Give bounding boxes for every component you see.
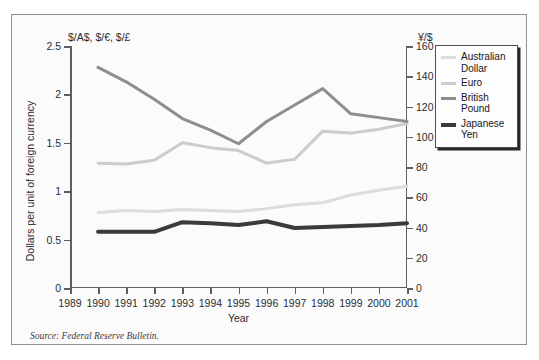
- series-line-euro: [98, 123, 407, 164]
- y-axis-left-tick-label: 1: [55, 186, 61, 197]
- x-axis-tick: [210, 288, 212, 294]
- y-axis-left-tick-label: 0: [55, 283, 61, 294]
- x-axis-tick-label: 1999: [339, 298, 362, 309]
- legend-swatch-line-icon: [441, 56, 456, 59]
- legend-item-label: Euro: [461, 77, 482, 89]
- y-axis-right-tick-label: 120: [416, 101, 434, 112]
- legend-swatch-line-icon: [441, 97, 456, 100]
- legend-item[interactable]: Euro: [440, 77, 513, 89]
- x-axis-tick: [351, 288, 353, 294]
- y-axis-title: Dollars per unit of foreign currency: [24, 60, 36, 302]
- x-axis-tick: [295, 288, 297, 294]
- y-axis-right-tick-label: 160: [416, 41, 434, 52]
- y-axis-right-tick: [407, 258, 413, 260]
- y-axis-right-tick: [407, 46, 413, 48]
- x-axis-tick-label: 2000: [367, 298, 390, 309]
- x-axis-tick-label: 2001: [395, 298, 418, 309]
- y-axis-right-tick-label: 80: [416, 162, 428, 173]
- y-axis-right-tick-label: 0: [416, 283, 422, 294]
- x-axis-tick-label: 1993: [171, 298, 194, 309]
- plot-area: 00.511.522.5 020406080100120140160 19891…: [70, 46, 407, 288]
- source-note: Source: Federal Reserve Bulletin.: [30, 331, 159, 341]
- x-axis-tick-label: 1991: [114, 298, 137, 309]
- legend: Australian DollarEuroBritish PoundJapane…: [435, 45, 518, 148]
- y-axis-right-tick-label: 60: [416, 192, 428, 203]
- legend-item-label: Japanese Yen: [461, 118, 513, 141]
- legend-item[interactable]: Australian Dollar: [440, 51, 513, 74]
- x-axis-tick-label: 1996: [255, 298, 278, 309]
- left-axis-unit-label: $/A$, $/€, $/£: [68, 31, 130, 43]
- x-axis-tick-label: 1990: [86, 298, 109, 309]
- x-axis-tick: [267, 288, 269, 294]
- legend-item-label: British Pound: [461, 92, 513, 115]
- y-axis-right-tick-label: 140: [416, 71, 434, 82]
- x-axis-tick-label: 1994: [199, 298, 222, 309]
- x-axis-title: Year: [70, 312, 407, 324]
- y-axis-right-tick: [407, 137, 413, 139]
- series-line-japanese-yen: [98, 221, 407, 232]
- y-axis-right-tick-label: 40: [416, 222, 428, 233]
- x-axis-tick: [323, 288, 325, 294]
- x-axis-tick: [182, 288, 184, 294]
- x-axis-tick: [98, 288, 100, 294]
- x-axis-tick-label: 1989: [58, 298, 81, 309]
- x-axis-tick: [239, 288, 241, 294]
- y-axis-left-tick-label: 0.5: [46, 234, 61, 245]
- legend-item[interactable]: Japanese Yen: [440, 118, 513, 141]
- figure-frame: $/A$, $/€, $/£ ¥/$ Dollars per unit of f…: [11, 14, 527, 345]
- y-axis-right-tick: [407, 228, 413, 230]
- y-axis-left-tick-label: 2: [55, 89, 61, 100]
- x-axis-tick-label: 1997: [283, 298, 306, 309]
- series-line-australian-dollar: [98, 186, 407, 212]
- series-lines: [70, 46, 407, 288]
- y-axis-left-tick-label: 2.5: [46, 41, 61, 52]
- legend-item-label: Australian Dollar: [461, 51, 513, 74]
- legend-item[interactable]: British Pound: [440, 92, 513, 115]
- y-axis-right-tick: [407, 107, 413, 109]
- x-axis-tick: [407, 288, 409, 294]
- y-axis-right-tick: [407, 197, 413, 199]
- x-axis-tick: [379, 288, 381, 294]
- y-axis-right-tick: [407, 76, 413, 78]
- x-axis-tick-label: 1998: [311, 298, 334, 309]
- x-axis-tick: [154, 288, 156, 294]
- legend-swatch-line-icon: [441, 123, 456, 127]
- x-axis-tick: [70, 288, 72, 294]
- y-axis-left-tick-label: 1.5: [46, 138, 61, 149]
- x-axis-tick: [126, 288, 128, 294]
- legend-swatch-line-icon: [441, 82, 456, 85]
- y-axis-right-tick-label: 20: [416, 253, 428, 264]
- y-axis-right-tick: [407, 167, 413, 169]
- x-axis-tick-label: 1992: [143, 298, 166, 309]
- y-axis-right-tick-label: 100: [416, 132, 434, 143]
- x-axis-tick-label: 1995: [227, 298, 250, 309]
